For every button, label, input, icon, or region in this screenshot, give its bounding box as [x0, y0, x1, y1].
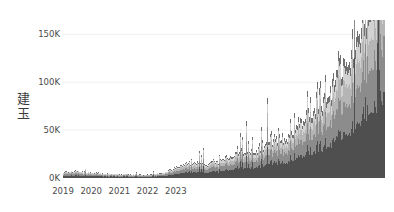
y-axis-tick-label: 0K [26, 173, 60, 183]
x-axis-tick-label: 2020 [80, 186, 102, 196]
y-axis-tick-label: 150K [26, 29, 60, 39]
y-axis-tick-label: 100K [26, 77, 60, 87]
y-axis-tick-label: 50K [26, 125, 60, 135]
x-axis-tick-label: 2023 [165, 186, 187, 196]
x-axis-tick-label: 2019 [52, 186, 74, 196]
x-axis-tick-label: 2021 [109, 186, 131, 196]
plot-svg [63, 20, 385, 178]
stacked-area-chart: 建 玉 0K50K100K150K 20192020202120222023 [0, 0, 394, 212]
y-axis-ticks: 0K50K100K150K [22, 0, 60, 212]
plot-area [63, 20, 385, 178]
x-axis-tick-label: 2022 [137, 186, 159, 196]
